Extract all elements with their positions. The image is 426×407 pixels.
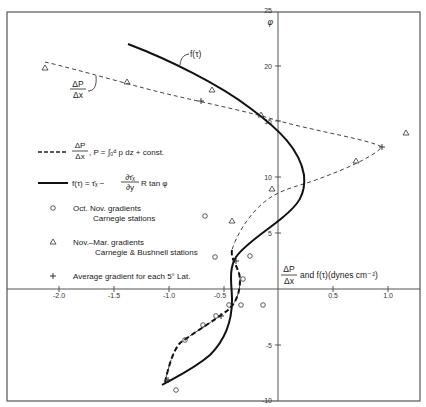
plot-frame (7, 12, 420, 401)
legend-triangle-marker (50, 239, 56, 244)
svg-text:f(τ): f(τ) (190, 49, 202, 59)
triangle-markers (42, 65, 409, 223)
y-tick-label: 10 (264, 174, 272, 181)
svg-text:, P = ∫₀ᵈ p dz + const.: , P = ∫₀ᵈ p dz + const. (89, 148, 164, 157)
y-tick-label: 5 (268, 230, 272, 237)
legend-circle-marker (51, 206, 56, 211)
annotation-f-tau: f(τ) (180, 49, 202, 65)
x-tick-label: 1.0 (383, 292, 393, 299)
plus-markers (165, 98, 385, 383)
chart-canvas: -2.0 -1.5 -1.0 -0.5 0.5 1.0 25 20 15 10 … (0, 0, 426, 407)
svg-text:Carnegie stations: Carnegie stations (93, 214, 155, 223)
svg-text:ΔP: ΔP (75, 141, 86, 150)
x-tick-label: -0.5 (214, 292, 226, 299)
y-tick-label: 20 (264, 63, 272, 70)
svg-text:f(τ) = τ̄ₓ −: f(τ) = τ̄ₓ − (72, 179, 105, 188)
svg-text:ΔP: ΔP (283, 264, 295, 274)
series-dp-dx-lower (165, 250, 240, 382)
legend: ΔP Δx , P = ∫₀ᵈ p dz + const. f(τ) = τ̄ₓ… (38, 141, 198, 281)
x-tick-label: -2.0 (53, 292, 65, 299)
svg-text:Oct. Nov. gradients: Oct. Nov. gradients (73, 204, 141, 213)
x-tick-label: -1.0 (163, 292, 175, 299)
annotation-dp-dx: ΔP Δx (70, 76, 96, 100)
y-tick-label: -5 (266, 342, 272, 349)
x-ticks: -2.0 -1.5 -1.0 -0.5 0.5 1.0 (53, 286, 393, 299)
svg-text:ΔP: ΔP (72, 79, 84, 89)
legend-plus-marker (50, 273, 56, 279)
svg-text:∂τ̄ₓ: ∂τ̄ₓ (125, 173, 135, 182)
svg-text:Nov.–Mar. gradients: Nov.–Mar. gradients (73, 238, 144, 247)
svg-text:Average gradient for each 5° L: Average gradient for each 5° Lat. (73, 272, 190, 281)
svg-text:R tan φ: R tan φ (141, 179, 168, 188)
svg-text:Δx: Δx (73, 90, 84, 100)
svg-text:Δx: Δx (75, 152, 84, 161)
x-axis-label: ΔP Δx and f(τ)(dynes cm⁻²) (281, 264, 378, 286)
x-tick-label: 0.5 (328, 292, 338, 299)
svg-text:Δx: Δx (284, 276, 295, 286)
svg-text:Carnegie & Bushnell stations: Carnegie & Bushnell stations (95, 248, 198, 257)
svg-text:∂y: ∂y (126, 183, 134, 192)
y-axis-symbol: φ (267, 17, 273, 27)
x-tick-label: -1.5 (108, 292, 120, 299)
y-tick-label: 25 (264, 7, 272, 14)
y-tick-label: -10 (262, 397, 272, 404)
svg-text:and f(τ)(dynes cm⁻²): and f(τ)(dynes cm⁻²) (300, 270, 378, 280)
